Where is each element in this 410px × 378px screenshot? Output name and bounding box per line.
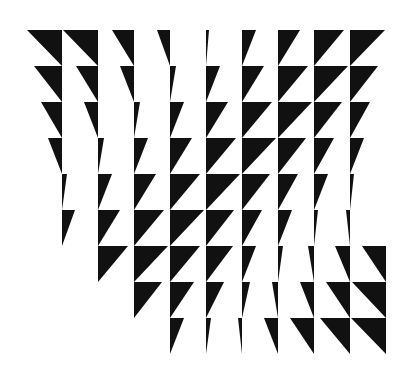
triangle-wedge bbox=[278, 66, 308, 102]
triangle-wedge bbox=[352, 282, 386, 318]
triangle-wedge bbox=[278, 102, 312, 138]
triangle-wedge bbox=[206, 66, 220, 102]
triangle-wedge bbox=[134, 282, 162, 318]
triangle-wedge bbox=[242, 138, 276, 174]
triangle-wedge bbox=[170, 174, 200, 210]
triangle-wedge bbox=[290, 318, 314, 354]
triangle-wedge bbox=[350, 30, 385, 66]
triangle-wedge bbox=[206, 246, 233, 282]
triangle-wedge bbox=[314, 30, 344, 66]
triangle-wedge bbox=[278, 174, 298, 210]
triangle-wedge bbox=[264, 318, 278, 354]
triangle-wedge bbox=[314, 174, 328, 210]
triangle-wedge bbox=[62, 210, 75, 246]
triangle-wedge bbox=[34, 66, 62, 102]
triangle-wedge bbox=[206, 138, 236, 174]
triangle-wedge bbox=[63, 30, 98, 66]
triangle-wedge bbox=[350, 138, 364, 174]
triangle-wedge bbox=[242, 282, 250, 318]
triangle-wedge bbox=[242, 174, 270, 210]
triangle-wedge bbox=[326, 282, 350, 318]
triangle-wedge bbox=[278, 210, 292, 246]
triangle-wedge bbox=[242, 210, 262, 246]
triangle-wedge bbox=[320, 318, 350, 354]
triangle-wedge bbox=[170, 210, 204, 246]
triangle-wedge bbox=[242, 102, 272, 138]
triangle-wedge bbox=[134, 102, 140, 138]
triangle-wedge bbox=[350, 66, 378, 102]
triangle-wedge bbox=[48, 138, 62, 174]
triangle-wedge bbox=[206, 30, 209, 66]
triangle-wedge bbox=[98, 174, 112, 210]
triangle-wedge bbox=[350, 102, 370, 138]
triangle-wedge bbox=[84, 102, 98, 138]
triangle-wedge bbox=[206, 318, 211, 354]
triangle-wedge bbox=[272, 282, 278, 318]
triangle-wedge bbox=[62, 174, 67, 210]
triangle-wedge bbox=[76, 66, 98, 102]
triangle-wedge bbox=[350, 174, 354, 210]
triangle-wedge bbox=[278, 138, 306, 174]
triangle-wedge bbox=[362, 246, 386, 282]
triangle-wedge bbox=[314, 102, 342, 138]
triangle-wedge bbox=[98, 210, 120, 246]
triangle-wedge bbox=[206, 102, 228, 138]
triangle-wedge bbox=[314, 138, 334, 174]
triangle-wedge bbox=[242, 66, 264, 102]
triangle-wedge bbox=[314, 66, 348, 102]
triangle-wedge bbox=[112, 30, 134, 66]
triangle-wedge bbox=[314, 210, 318, 246]
triangle-wedge bbox=[170, 138, 192, 174]
triangle-wedge bbox=[157, 30, 170, 66]
triangle-wedge bbox=[278, 30, 300, 66]
triangle-wedge bbox=[170, 102, 184, 138]
triangle-wedge bbox=[308, 246, 314, 282]
triangle-wedge bbox=[170, 282, 194, 318]
triangle-wedge bbox=[242, 30, 256, 66]
triangle-wedge bbox=[98, 138, 104, 174]
triangle-wedge bbox=[206, 210, 234, 246]
triangle-wedge bbox=[346, 210, 350, 246]
triangle-wedge bbox=[134, 210, 164, 246]
triangle-wedge bbox=[134, 138, 148, 174]
triangle-wedge bbox=[120, 66, 134, 102]
triangle-wedge bbox=[170, 246, 200, 282]
triangle-wedge bbox=[41, 102, 62, 138]
triangle-wedge bbox=[170, 66, 176, 102]
triangle-artwork bbox=[0, 0, 410, 378]
triangle-wedge bbox=[206, 282, 224, 318]
triangle-wedge bbox=[98, 246, 128, 282]
triangle-wedge bbox=[335, 246, 350, 282]
triangle-wedge bbox=[134, 246, 168, 282]
triangle-wedge bbox=[170, 318, 184, 354]
triangle-wedge bbox=[238, 318, 242, 354]
triangle-wedge bbox=[351, 318, 386, 354]
triangle-wedge bbox=[27, 30, 62, 66]
triangle-wedge bbox=[134, 174, 156, 210]
triangle-wedge bbox=[300, 282, 314, 318]
triangle-wedge bbox=[278, 246, 283, 282]
triangle-wedge bbox=[242, 246, 256, 282]
triangle-wedge bbox=[206, 174, 240, 210]
